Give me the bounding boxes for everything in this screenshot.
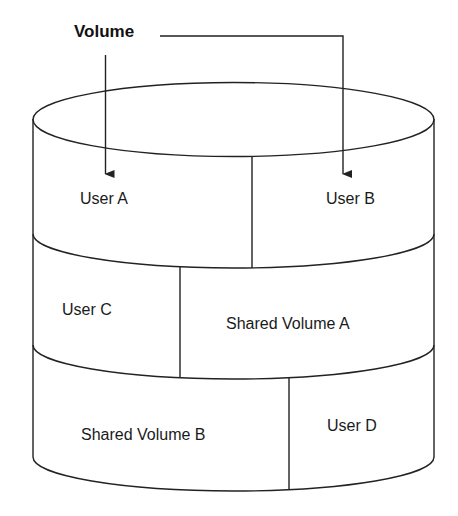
segment-label-shared-volume-b: Shared Volume B (81, 427, 206, 443)
segment-label-user-d: User D (327, 418, 377, 434)
cylinder-top-ellipse (33, 83, 434, 157)
tier-1-bottom-arc (33, 234, 434, 268)
segment-label-user-c: User C (62, 302, 112, 318)
volume-cylinder-diagram (0, 0, 458, 516)
tier-2-bottom-arc (33, 345, 434, 379)
segment-label-user-a: User A (80, 191, 128, 207)
segment-label-shared-volume-a: Shared Volume A (226, 316, 350, 332)
segment-label-user-b: User B (326, 191, 375, 207)
volume-title-label: Volume (74, 23, 134, 40)
cylinder-bottom-arc (33, 457, 434, 491)
